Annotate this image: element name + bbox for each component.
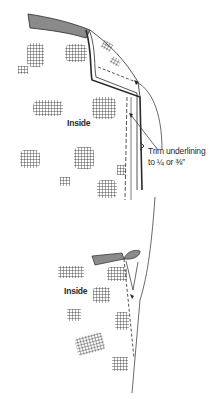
trim-callout-line2: to ¼ or ⅜″ xyxy=(148,157,205,168)
lower-shaded-flap xyxy=(92,253,124,265)
lower-fabric-texture xyxy=(58,266,129,371)
connector-line xyxy=(132,197,155,393)
upper-shaded-edge xyxy=(28,14,90,38)
sewing-diagram xyxy=(0,0,215,399)
upper-inside-label: Inside xyxy=(67,118,90,128)
upper-stitch-line xyxy=(125,97,127,200)
upper-arrow-seam xyxy=(131,115,158,150)
trim-callout-line1: Trim underlining xyxy=(148,146,205,157)
lower-garment-view xyxy=(58,250,140,371)
lower-inside-label: Inside xyxy=(64,286,87,296)
trim-callout: Trim underlining to ¼ or ⅜″ xyxy=(148,146,205,168)
